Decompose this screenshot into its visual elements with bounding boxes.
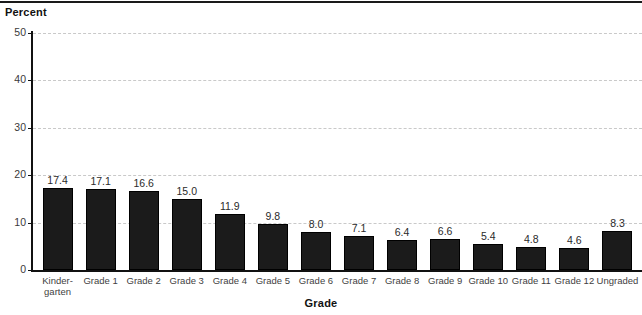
y-tick-label-50: 50	[0, 26, 26, 38]
bar-value-label: 4.8	[509, 233, 553, 245]
chart-page: Percent 01020304050 17.417.116.615.011.9…	[0, 0, 642, 315]
bar-value-label: 11.9	[208, 200, 252, 212]
y-axis-title: Percent	[5, 6, 47, 18]
bar-value-label: 9.8	[251, 210, 295, 222]
y-tick-label-20: 20	[0, 168, 26, 180]
bar	[559, 248, 589, 270]
bar-value-label: 5.4	[466, 230, 510, 242]
bar	[387, 240, 417, 270]
bar	[215, 214, 245, 270]
y-tick-mark-0	[28, 270, 33, 271]
y-tick-label-40: 40	[0, 73, 26, 85]
bar-value-label: 6.6	[423, 225, 467, 237]
bar-value-label: 17.4	[36, 174, 80, 186]
bar-value-label: 17.1	[79, 175, 123, 187]
x-axis-line	[31, 270, 642, 272]
x-category-label: Kinder- garten	[36, 275, 79, 297]
bar	[473, 244, 503, 270]
x-axis-title: Grade	[0, 297, 642, 309]
top-divider	[0, 1, 642, 3]
bar	[301, 232, 331, 270]
x-category-label: Grade 2	[122, 275, 165, 286]
x-category-label: Grade 11	[510, 275, 553, 286]
gridline-30	[33, 128, 642, 129]
gridline-20	[33, 175, 642, 176]
x-category-label: Grade 5	[251, 275, 294, 286]
bar	[516, 247, 546, 270]
x-category-label: Grade 4	[208, 275, 251, 286]
y-tick-mark-50	[28, 33, 33, 34]
x-category-label: Grade 12	[553, 275, 596, 286]
bar-value-label: 7.1	[337, 222, 381, 234]
bar-value-label: 8.3	[595, 217, 639, 229]
x-category-label: Grade 7	[338, 275, 381, 286]
bar	[258, 224, 288, 270]
bar-value-label: 16.6	[122, 177, 166, 189]
bar	[43, 188, 73, 270]
y-tick-label-10: 10	[0, 216, 26, 228]
x-category-label: Grade 6	[294, 275, 337, 286]
bar-value-label: 4.6	[552, 234, 596, 246]
bar	[602, 231, 632, 270]
y-tick-mark-40	[28, 80, 33, 81]
x-category-label: Grade 8	[381, 275, 424, 286]
y-axis-line	[31, 31, 33, 272]
gridline-50	[33, 33, 642, 34]
x-category-label: Grade 3	[165, 275, 208, 286]
bar	[129, 191, 159, 270]
y-tick-mark-10	[28, 223, 33, 224]
x-category-label: Grade 1	[79, 275, 122, 286]
bar-value-label: 15.0	[165, 185, 209, 197]
bar	[86, 189, 116, 270]
bar	[430, 239, 460, 270]
x-category-label: Ungraded	[596, 275, 639, 286]
y-tick-label-30: 30	[0, 121, 26, 133]
x-category-label: Grade 9	[424, 275, 467, 286]
x-category-label: Grade 10	[467, 275, 510, 286]
bar-value-label: 8.0	[294, 218, 338, 230]
y-tick-mark-20	[28, 175, 33, 176]
bar-value-label: 6.4	[380, 226, 424, 238]
y-tick-mark-30	[28, 128, 33, 129]
gridline-40	[33, 80, 642, 81]
bar	[344, 236, 374, 270]
y-tick-label-0: 0	[0, 263, 26, 275]
bar	[172, 199, 202, 270]
